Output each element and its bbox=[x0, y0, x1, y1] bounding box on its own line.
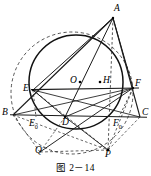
vertex-label-c: C bbox=[142, 108, 148, 118]
circumcircle-abc-dashed bbox=[11, 32, 133, 154]
vertex-label-p: P bbox=[105, 150, 111, 160]
vertex-label-a: A bbox=[114, 4, 120, 14]
point-dot-f bbox=[132, 87, 134, 89]
vertex-label-e: E bbox=[23, 84, 29, 94]
segment-ad bbox=[65, 18, 113, 117]
figure-caption: 图 2－14 bbox=[0, 160, 151, 174]
point-dot-h bbox=[99, 81, 102, 84]
point-dot-e bbox=[32, 89, 34, 91]
vertex-label-q: Q bbox=[35, 146, 42, 156]
segment-ab bbox=[13, 18, 113, 115]
vertex-label-f: F bbox=[135, 79, 141, 89]
segment-bp-dashed bbox=[13, 115, 108, 150]
vertex-label-e0: E0 bbox=[29, 119, 38, 129]
vertex-label-e0-subscript: 0 bbox=[35, 123, 38, 130]
segment-bc bbox=[10, 115, 147, 118]
geometry-figure: A B C D E F O H P Q E0 F0 图 2－14 bbox=[0, 0, 151, 176]
vertex-label-o: O bbox=[70, 76, 77, 86]
point-dot-o bbox=[79, 81, 82, 84]
vertex-label-f0: F0 bbox=[113, 119, 122, 129]
segment-ep-dashed bbox=[33, 90, 108, 150]
vertex-label-b: B bbox=[2, 108, 8, 118]
vertex-label-h: H bbox=[103, 76, 110, 86]
vertex-label-d: D bbox=[62, 118, 69, 128]
vertex-label-f0-subscript: 0 bbox=[119, 123, 122, 130]
point-dot-a bbox=[112, 17, 114, 19]
